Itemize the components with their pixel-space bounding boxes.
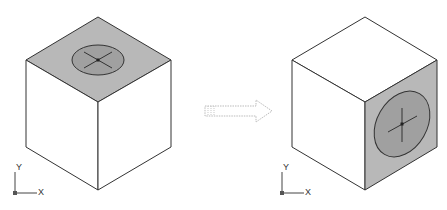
x-axis-label: X: [305, 187, 311, 197]
diagram-canvas: Y X Y X: [0, 0, 447, 210]
arrow-icon: [205, 100, 272, 122]
center-point: [401, 123, 404, 126]
x-axis-label: X: [38, 187, 44, 197]
ucs-icon-left: Y X: [13, 162, 44, 197]
ucs-icon-right: Y X: [280, 162, 311, 197]
cube-before: [26, 17, 171, 190]
y-axis-label: Y: [283, 162, 289, 172]
cube-after: [292, 17, 441, 190]
y-axis-label: Y: [16, 162, 22, 172]
center-point: [97, 59, 100, 62]
transform-arrow: [205, 100, 272, 122]
